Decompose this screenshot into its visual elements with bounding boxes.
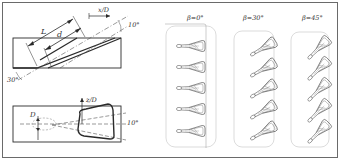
label-30deg: 30° [7, 76, 19, 84]
dim-L-ext [26, 43, 37, 66]
fan-hole-icon [176, 125, 205, 136]
label-D: D [29, 111, 36, 119]
hole-geometry-panel: L d x/D 10° 30° [0, 0, 160, 161]
label-10deg-side: 10° [128, 21, 140, 29]
array-beta-0: β=0° [164, 14, 216, 148]
fan-hole-icon [304, 98, 332, 126]
expansion-line [60, 26, 128, 68]
hole-arrays-panel: β=0° β=30° β=45° [160, 0, 341, 161]
fan-hole-icon [176, 82, 205, 93]
top-view: D z/D 10° [13, 96, 139, 142]
label-x-over-D: x/D [98, 6, 110, 14]
hole-arrays-svg: β=0° β=30° β=45° [160, 0, 341, 161]
label-z-over-D: z/D [85, 96, 98, 104]
fan-hole-icon [176, 40, 205, 51]
hole-geometry-svg: L d x/D 10° 30° [0, 0, 160, 161]
fan-hole-icon [248, 57, 278, 81]
fan-hole-icon [176, 61, 205, 72]
expansion-line-lower [52, 125, 126, 140]
expansion-line-upper [52, 113, 126, 125]
array-beta-45: β=45° [291, 14, 332, 147]
dim-L-line [28, 19, 73, 46]
plate-edge-beta-0 [165, 24, 206, 148]
arrow-icon [67, 19, 73, 24]
fan-hole-icon [248, 78, 278, 102]
arrow-icon [75, 28, 81, 33]
label-L: L [40, 27, 46, 36]
label-beta-45: β=45° [301, 14, 323, 22]
fan-hole-icon [248, 99, 278, 123]
hole-centerline [18, 16, 128, 80]
fan-hole-icon [304, 35, 332, 63]
arrow-icon [80, 98, 84, 102]
fan-hole-icon [304, 56, 332, 84]
label-beta-0: β=0° [186, 14, 204, 22]
arrow-icon [45, 45, 51, 50]
label-d: d [57, 30, 62, 39]
label-beta-30: β=30° [242, 14, 264, 22]
fan-hole-icon [304, 77, 332, 105]
arrow-icon [28, 41, 34, 46]
side-view: L d x/D 10° 30° [7, 6, 140, 84]
label-10deg-top: 10° [127, 119, 139, 127]
arrow-icon [106, 14, 110, 18]
fan-hole-icon [176, 103, 205, 114]
fan-hole-icon [248, 36, 278, 60]
hole-wall-upper [48, 38, 121, 68]
array-beta-30: β=30° [234, 14, 278, 147]
dim-L-ext [73, 16, 85, 37]
